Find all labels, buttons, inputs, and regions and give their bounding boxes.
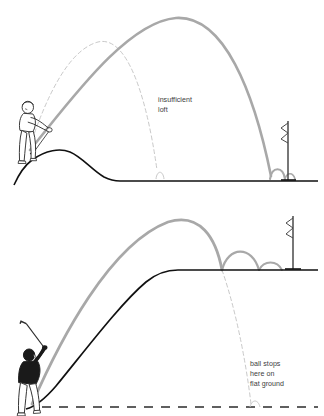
golfer-top-torso bbox=[19, 113, 35, 132]
ball-stops-label-line1: ball stops bbox=[250, 360, 281, 368]
golfer-bottom-shoe-front bbox=[33, 410, 40, 413]
diagram-canvas: insufficient loft bbox=[0, 0, 324, 416]
canvas-background bbox=[0, 0, 324, 416]
golfer-top-shoe-back bbox=[18, 161, 26, 164]
golfer-bottom-hands bbox=[42, 345, 47, 350]
golfer-bottom-shoe-back bbox=[17, 413, 25, 416]
golfer-top-shoe-front bbox=[30, 158, 36, 160]
insufficient-loft-label-line2: loft bbox=[158, 106, 168, 114]
golfer-bottom-head bbox=[23, 349, 34, 361]
insufficient-loft-label-line1: insufficient bbox=[158, 96, 192, 104]
golfer-bottom-torso bbox=[19, 361, 40, 384]
ball-stops-label-line3: flat ground bbox=[250, 380, 284, 388]
golfer-top-hands bbox=[47, 128, 53, 132]
ball-stops-label-line2: here on bbox=[250, 370, 274, 378]
golf-trajectory-diagram: insufficient loft bbox=[0, 0, 324, 416]
